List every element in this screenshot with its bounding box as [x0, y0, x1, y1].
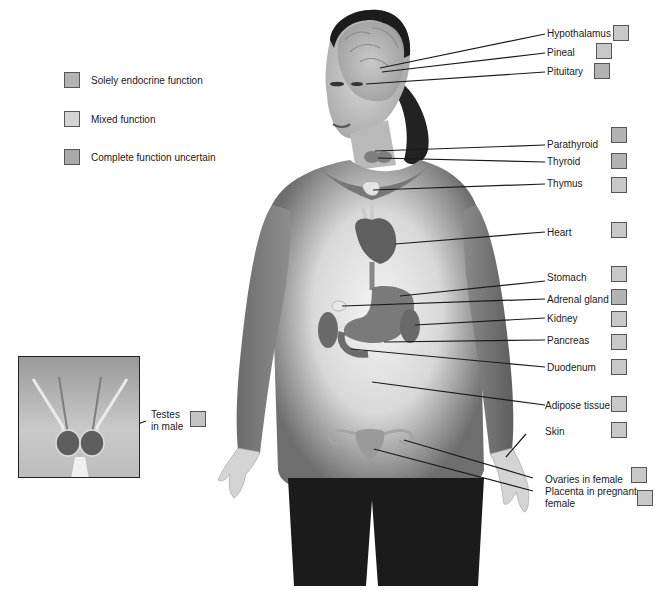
label-parathyroid: Parathyroid: [547, 139, 598, 151]
adrenal-gland-category-box: [611, 289, 627, 305]
legend-label-uncertain: Complete function uncertain: [91, 152, 216, 163]
label-placenta-2: female: [545, 498, 575, 510]
label-heart: Heart: [547, 227, 571, 239]
label-adipose-tissue: Adipose tissue: [545, 400, 610, 412]
label-kidney: Kidney: [547, 313, 578, 325]
label-hypothalamus: Hypothalamus: [547, 28, 611, 40]
legend-swatch-mixed: [64, 111, 80, 127]
label-pituitary: Pituitary: [547, 66, 583, 78]
label-stomach: Stomach: [547, 272, 586, 284]
label-pancreas: Pancreas: [547, 335, 589, 347]
label-thyroid: Thyroid: [547, 156, 580, 168]
thyroid-category-box: [611, 153, 627, 169]
heart-category-box: [611, 222, 627, 238]
legend-label-mixed: Mixed function: [91, 114, 155, 125]
label-placenta-1: Placenta in pregnant: [545, 486, 637, 498]
testes-category-box: [190, 411, 206, 427]
placenta-category-box: [637, 490, 653, 506]
label-testes-1: Testes: [151, 409, 180, 421]
hypothalamus-category-box: [613, 25, 629, 41]
legend-item-uncertain: Complete function uncertain: [64, 148, 216, 166]
label-skin: Skin: [545, 426, 564, 438]
parathyroid-category-box: [611, 127, 627, 143]
label-pineal: Pineal: [547, 47, 575, 59]
legend-item-solely: Solely endocrine function: [64, 71, 203, 89]
label-adrenal-gland: Adrenal gland: [547, 294, 609, 306]
ovaries-category-box: [631, 467, 647, 483]
pituitary-category-box: [594, 63, 610, 79]
testes-inset-panel: [18, 356, 140, 478]
stomach-category-box: [611, 266, 627, 282]
pineal-category-box: [596, 43, 612, 59]
legend-swatch-solely: [64, 72, 80, 88]
pancreas-category-box: [611, 334, 627, 350]
label-duodenum: Duodenum: [547, 362, 596, 374]
legend-swatch-uncertain: [64, 149, 80, 165]
testes-inset-illustration: [19, 357, 140, 478]
label-thymus: Thymus: [547, 178, 583, 190]
skin-category-box: [611, 422, 627, 438]
duodenum-category-box: [611, 359, 627, 375]
legend-label-solely: Solely endocrine function: [91, 75, 203, 86]
kidney-category-box: [611, 311, 627, 327]
label-testes-2: in male: [151, 421, 183, 433]
thymus-category-box: [611, 177, 627, 193]
adipose-tissue-category-box: [611, 396, 627, 412]
legend-item-mixed: Mixed function: [64, 110, 155, 128]
label-ovaries: Ovaries in female: [545, 474, 623, 486]
